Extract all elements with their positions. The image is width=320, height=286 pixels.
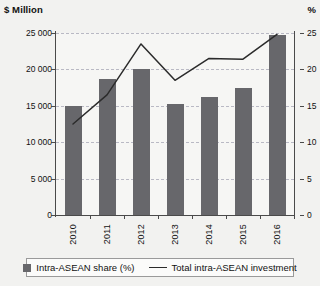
- legend-item-bar: Intra-ASEAN share (%): [23, 262, 134, 273]
- left-axis-tick-label: 10 000: [6, 137, 52, 147]
- legend-line-swatch-icon: [149, 267, 167, 268]
- x-axis-tick-mark: [294, 215, 295, 219]
- left-axis-tick-label: 5 000: [6, 174, 52, 184]
- x-axis-line: [55, 215, 295, 216]
- line-series: [56, 33, 294, 215]
- chart-container: $ Million % 05 00010 00015 00020 00025 0…: [0, 0, 320, 286]
- right-axis-line: [294, 31, 295, 217]
- right-axis-tick-mark: [300, 106, 304, 107]
- x-axis-tick-label: 2014: [204, 224, 214, 245]
- plot-area: [56, 33, 294, 215]
- x-axis-tick-label: 2010: [68, 224, 78, 245]
- legend-item-label: Total intra-ASEAN investment: [172, 262, 297, 273]
- x-axis-tick-label: 2011: [102, 224, 112, 244]
- x-axis-tick-label: 2013: [170, 224, 180, 245]
- right-axis-tick-mark: [300, 215, 304, 216]
- line-path: [73, 34, 277, 124]
- x-axis-tick-mark: [192, 215, 193, 219]
- left-axis-line: [55, 31, 56, 217]
- x-axis-tick-label: 2015: [238, 224, 248, 245]
- x-axis-tick-mark: [260, 215, 261, 219]
- left-axis-tick-label: 25 000: [6, 28, 52, 38]
- left-axis-tick-label: 20 000: [6, 64, 52, 74]
- right-axis-tick-label: 25: [307, 28, 316, 38]
- right-axis-tick-label: 5: [307, 174, 312, 184]
- right-axis-tick-mark: [300, 33, 304, 34]
- right-axis-tick-mark: [300, 69, 304, 70]
- right-axis-tick-label: 20: [307, 64, 316, 74]
- right-axis-tick-labels: 0510152025: [300, 0, 320, 286]
- right-axis-tick-label: 10: [307, 137, 316, 147]
- right-axis-tick-mark: [300, 142, 304, 143]
- legend-item-label: Intra-ASEAN share (%): [36, 262, 134, 273]
- x-axis-tick-mark: [226, 215, 227, 219]
- left-axis-tick-label: 15 000: [6, 101, 52, 111]
- chart-legend: Intra-ASEAN share (%) Total intra-ASEAN …: [26, 258, 294, 277]
- x-axis-tick-label: 2012: [136, 224, 146, 245]
- x-axis-tick-mark: [90, 215, 91, 219]
- left-axis-tick-label: 0: [6, 210, 52, 220]
- legend-bar-swatch-icon: [23, 264, 31, 272]
- legend-item-line: Total intra-ASEAN investment: [149, 262, 297, 273]
- x-axis-tick-mark: [158, 215, 159, 219]
- x-axis-tick-label: 2016: [272, 224, 282, 245]
- left-axis-tick-labels: 05 00010 00015 00020 00025 000: [0, 0, 52, 286]
- right-axis-tick-mark: [300, 179, 304, 180]
- right-axis-tick-label: 0: [307, 210, 312, 220]
- x-axis-tick-mark: [124, 215, 125, 219]
- right-axis-tick-label: 15: [307, 101, 316, 111]
